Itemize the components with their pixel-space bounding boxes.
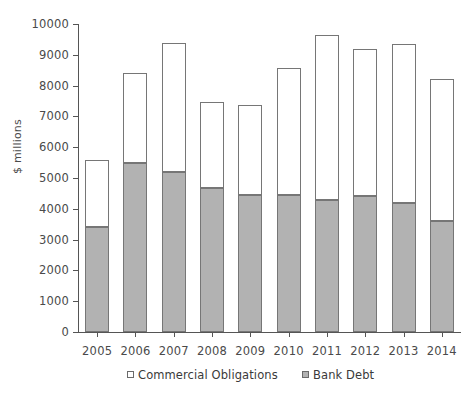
bar-segment-commercial-obligations[interactable] [315, 35, 339, 199]
bar-group[interactable] [392, 24, 416, 332]
x-axis-tick [289, 332, 290, 337]
bar-segment-commercial-obligations[interactable] [353, 49, 377, 196]
legend-label: Bank Debt [313, 368, 374, 382]
stacked-bar-chart: $ millions 01000200030004000500060007000… [0, 0, 471, 400]
bar-group[interactable] [315, 24, 339, 332]
bar-segment-bank-debt[interactable] [200, 188, 224, 332]
y-axis-tick [73, 178, 78, 179]
x-axis-tick [327, 332, 328, 337]
bar-group[interactable] [200, 24, 224, 332]
y-axis-label: 8000 [39, 79, 69, 93]
bar-group[interactable] [162, 24, 186, 332]
bar-segment-commercial-obligations[interactable] [277, 68, 301, 195]
bar-group[interactable] [430, 24, 454, 332]
y-axis-label: 0 [61, 325, 69, 339]
bar-segment-commercial-obligations[interactable] [162, 43, 186, 172]
legend-item[interactable]: Bank Debt [302, 368, 374, 382]
x-axis-tick [404, 332, 405, 337]
x-axis-tick [212, 332, 213, 337]
plot-area: 0100020003000400050006000700080009000100… [78, 24, 461, 332]
y-axis-tick [73, 332, 78, 333]
y-axis-tick [73, 301, 78, 302]
y-axis-label: 6000 [39, 140, 69, 154]
chart-legend: Commercial ObligationsBank Debt [0, 368, 471, 388]
y-axis-tick [73, 86, 78, 87]
bar-group[interactable] [353, 24, 377, 332]
bar-segment-bank-debt[interactable] [277, 195, 301, 332]
legend-swatch-icon [127, 371, 134, 378]
y-axis-line [78, 24, 79, 333]
bar-segment-bank-debt[interactable] [353, 196, 377, 332]
bar-segment-commercial-obligations[interactable] [430, 79, 454, 220]
bar-group[interactable] [238, 24, 262, 332]
bar-segment-bank-debt[interactable] [123, 163, 147, 332]
y-axis-tick [73, 24, 78, 25]
y-axis-label: 5000 [39, 171, 69, 185]
bar-segment-bank-debt[interactable] [238, 195, 262, 332]
bar-group[interactable] [85, 24, 109, 332]
y-axis-label: 3000 [39, 233, 69, 247]
bar-group[interactable] [277, 24, 301, 332]
x-axis-tick [250, 332, 251, 337]
bar-segment-commercial-obligations[interactable] [238, 105, 262, 195]
y-axis-label: 7000 [39, 109, 69, 123]
y-axis-tick [73, 209, 78, 210]
legend-item[interactable]: Commercial Obligations [127, 368, 278, 382]
x-axis-tick [442, 332, 443, 337]
bar-segment-bank-debt[interactable] [85, 227, 109, 332]
bar-segment-bank-debt[interactable] [430, 221, 454, 332]
bar-segment-commercial-obligations[interactable] [123, 73, 147, 163]
y-axis-tick [73, 240, 78, 241]
y-axis-tick [73, 55, 78, 56]
bar-segment-bank-debt[interactable] [162, 172, 186, 332]
bar-segment-bank-debt[interactable] [392, 203, 416, 332]
bar-segment-commercial-obligations[interactable] [85, 160, 109, 227]
y-axis-title: $ millions [11, 97, 24, 197]
y-axis-tick [73, 270, 78, 271]
legend-label: Commercial Obligations [138, 368, 278, 382]
x-axis-tick [174, 332, 175, 337]
bar-segment-commercial-obligations[interactable] [200, 102, 224, 188]
bar-group[interactable] [123, 24, 147, 332]
y-axis-label: 4000 [39, 202, 69, 216]
y-axis-label: 1000 [39, 294, 69, 308]
y-axis-label: 9000 [39, 48, 69, 62]
legend-swatch-icon [302, 371, 309, 378]
y-axis-tick [73, 116, 78, 117]
x-axis-tick [365, 332, 366, 337]
y-axis-label: 10000 [31, 17, 69, 31]
x-axis-tick [97, 332, 98, 337]
bar-segment-commercial-obligations[interactable] [392, 44, 416, 203]
x-axis-label: 2014 [412, 344, 471, 358]
x-axis-tick [135, 332, 136, 337]
bar-segment-bank-debt[interactable] [315, 200, 339, 332]
y-axis-tick [73, 147, 78, 148]
y-axis-label: 2000 [39, 263, 69, 277]
